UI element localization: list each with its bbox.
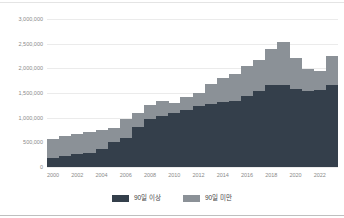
legend-swatch-90days-over bbox=[112, 195, 129, 202]
x-tick-label: 2008 bbox=[144, 172, 156, 178]
bar-2014-under90 bbox=[217, 78, 229, 102]
bar-2005-over90 bbox=[108, 142, 120, 167]
x-tick-label: 2022 bbox=[314, 172, 326, 178]
plot-area bbox=[47, 19, 338, 167]
bar-2010-over90 bbox=[168, 113, 180, 167]
x-tick-label: 2006 bbox=[120, 172, 132, 178]
bar-2006-over90 bbox=[120, 138, 132, 167]
gridline bbox=[47, 44, 338, 45]
bar-2016-over90 bbox=[241, 96, 253, 167]
bar-2011-over90 bbox=[180, 110, 192, 167]
y-tick-label: 1,000,000 bbox=[0, 115, 43, 121]
bar-2019-over90 bbox=[277, 85, 289, 167]
bar-2020-under90 bbox=[290, 58, 302, 89]
bar-2009-over90 bbox=[156, 116, 168, 167]
legend-swatch-90days-under bbox=[183, 195, 200, 202]
x-tick-label: 2000 bbox=[47, 172, 59, 178]
bar-2002-under90 bbox=[71, 134, 83, 154]
bar-2018-over90 bbox=[265, 85, 277, 167]
bar-2002-over90 bbox=[71, 154, 83, 167]
x-tick-label: 2018 bbox=[265, 172, 277, 178]
x-tick-label: 2002 bbox=[71, 172, 83, 178]
bar-2008-under90 bbox=[144, 105, 156, 118]
bar-2015-under90 bbox=[229, 74, 241, 101]
legend-item-90days-over: 90일 이상 bbox=[112, 194, 161, 202]
bar-2007-under90 bbox=[132, 113, 144, 127]
bar-2011-under90 bbox=[180, 97, 192, 110]
bar-2019-under90 bbox=[277, 42, 289, 85]
chart-panel: 0500,0001,000,0001,500,0002,000,0002,500… bbox=[0, 0, 344, 218]
x-tick-label: 2012 bbox=[192, 172, 204, 178]
x-tick-label: 2016 bbox=[241, 172, 253, 178]
legend-item-90days-under: 90일 미만 bbox=[183, 194, 232, 202]
gridline bbox=[47, 167, 338, 168]
x-tick-label: 2010 bbox=[168, 172, 180, 178]
bar-2016-under90 bbox=[241, 66, 253, 96]
gridline bbox=[47, 19, 338, 20]
x-tick-label: 2020 bbox=[289, 172, 301, 178]
bar-2004-under90 bbox=[96, 130, 108, 149]
bar-2022-over90 bbox=[314, 90, 326, 167]
bar-2009-under90 bbox=[156, 101, 168, 116]
top-divider bbox=[0, 2, 344, 3]
bar-2000-over90 bbox=[47, 158, 59, 167]
y-tick-label: 1,500,000 bbox=[0, 90, 43, 96]
bar-2017-under90 bbox=[253, 60, 265, 91]
bar-2003-under90 bbox=[83, 132, 95, 153]
bar-2005-under90 bbox=[108, 128, 120, 142]
y-tick-label: 500,000 bbox=[0, 139, 43, 145]
bar-2007-over90 bbox=[132, 127, 144, 167]
bar-2013-under90 bbox=[205, 84, 217, 104]
bar-2000-under90 bbox=[47, 139, 59, 158]
legend-label-90days-under: 90일 미만 bbox=[205, 194, 232, 202]
bar-2001-under90 bbox=[59, 136, 71, 156]
legend-label-90days-over: 90일 이상 bbox=[134, 194, 161, 202]
bar-2006-under90 bbox=[120, 119, 132, 138]
bar-2004-over90 bbox=[96, 149, 108, 167]
bar-2015-over90 bbox=[229, 101, 241, 167]
bar-2001-over90 bbox=[59, 156, 71, 167]
y-tick-label: 3,000,000 bbox=[0, 16, 43, 22]
bar-2008-over90 bbox=[144, 119, 156, 167]
bar-2023-over90 bbox=[326, 85, 338, 167]
bar-2012-over90 bbox=[193, 106, 205, 167]
x-tick-label: 2014 bbox=[217, 172, 229, 178]
x-tick-label: 2004 bbox=[95, 172, 107, 178]
y-tick-label: 2,000,000 bbox=[0, 65, 43, 71]
bar-2003-over90 bbox=[83, 153, 95, 167]
y-tick-label: 0 bbox=[0, 164, 43, 170]
bar-2014-over90 bbox=[217, 102, 229, 167]
bar-2022-under90 bbox=[314, 71, 326, 90]
bar-2018-under90 bbox=[265, 49, 277, 86]
bottom-divider bbox=[0, 215, 344, 216]
legend: 90일 이상 90일 미만 bbox=[0, 194, 344, 202]
y-tick-label: 2,500,000 bbox=[0, 41, 43, 47]
bar-2010-under90 bbox=[168, 103, 180, 112]
bar-2021-under90 bbox=[302, 69, 314, 91]
bar-2012-under90 bbox=[193, 93, 205, 107]
bar-2017-over90 bbox=[253, 91, 265, 167]
bar-2023-under90 bbox=[326, 56, 338, 86]
bar-2013-over90 bbox=[205, 104, 217, 167]
bar-2020-over90 bbox=[290, 89, 302, 167]
bar-2021-over90 bbox=[302, 91, 314, 167]
